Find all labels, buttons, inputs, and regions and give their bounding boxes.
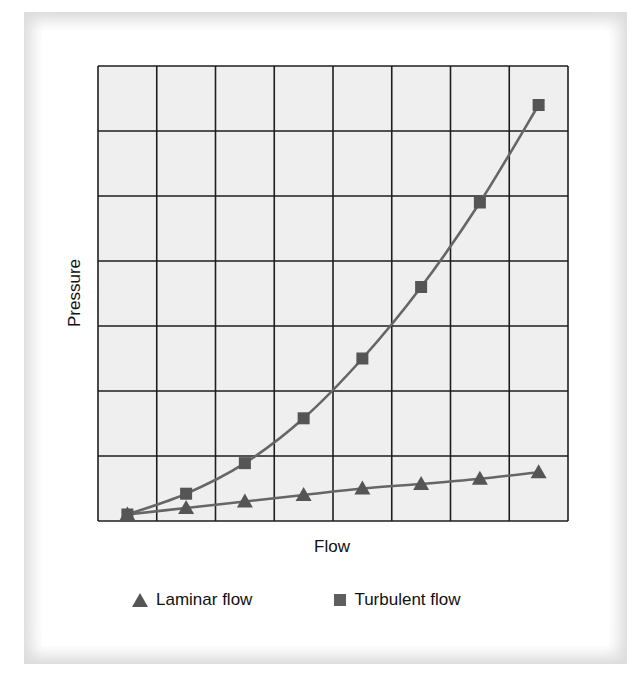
line-chart: [0, 0, 644, 677]
square-marker-icon: [239, 457, 251, 469]
square-marker-icon: [474, 197, 486, 209]
y-axis-label: Pressure: [65, 259, 85, 327]
square-marker-icon: [415, 281, 427, 293]
legend-item-turbulent: Turbulent flow: [334, 590, 460, 610]
square-marker-icon: [180, 488, 192, 500]
triangle-marker-icon: [132, 593, 148, 607]
chart-legend: Laminar flow Turbulent flow: [132, 590, 461, 610]
x-axis-label: Flow: [314, 537, 350, 557]
legend-label-laminar: Laminar flow: [156, 590, 252, 610]
square-marker-icon: [533, 99, 545, 111]
square-marker-icon: [334, 594, 346, 606]
legend-label-turbulent: Turbulent flow: [354, 590, 460, 610]
square-marker-icon: [121, 509, 133, 521]
square-marker-icon: [298, 412, 310, 424]
legend-item-laminar: Laminar flow: [132, 590, 252, 610]
square-marker-icon: [356, 353, 368, 365]
